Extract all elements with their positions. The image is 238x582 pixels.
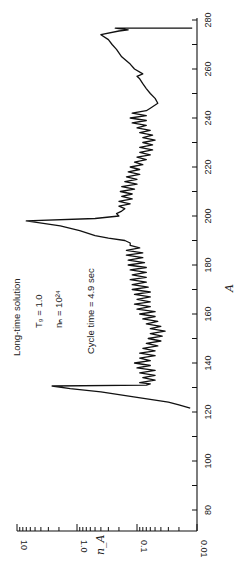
y-tick-label: 0.01	[199, 540, 209, 558]
x-tick-label: 160	[203, 306, 213, 321]
x-tick-label: 80	[203, 505, 213, 515]
x-tick-label: 280	[203, 12, 213, 27]
y-tick-label: 1.0	[79, 540, 89, 553]
annotation-title: Long-time solution	[11, 278, 22, 356]
chart: 80100120140160180200220240260280101.00.1…	[0, 0, 238, 582]
axes: 80100120140160180200220240260280101.00.1…	[17, 12, 213, 557]
data-line	[26, 28, 192, 408]
x-tick-label: 220	[203, 159, 213, 174]
x-tick-label: 180	[203, 257, 213, 272]
x-axis-label: A	[223, 284, 236, 293]
annotation-block: Long-time solution T₉ = 1.0 nₙ = 10²⁴ Cy…	[11, 268, 96, 356]
x-tick-label: 240	[203, 110, 213, 125]
y-tick-label: 0.1	[139, 540, 149, 553]
x-tick-label: 120	[203, 404, 213, 419]
annotation-neutron-density: nₙ = 10²⁴	[53, 290, 64, 328]
annotation-cycle-time: Cycle time = 4.9 sec	[85, 268, 96, 354]
x-tick-label: 100	[203, 453, 213, 468]
y-axis-label: n_A	[94, 534, 107, 555]
x-tick-label: 140	[203, 355, 213, 370]
annotation-temperature: T₉ = 1.0	[33, 294, 44, 328]
y-tick-label: 10	[19, 540, 29, 550]
x-tick-label: 200	[203, 208, 213, 223]
x-tick-label: 260	[203, 61, 213, 76]
